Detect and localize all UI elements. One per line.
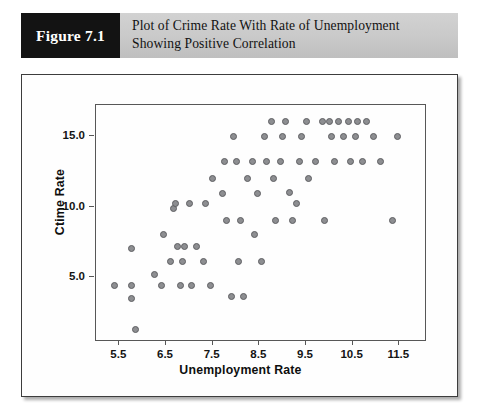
y-tick-label: 5.0 — [47, 270, 85, 282]
data-point — [200, 258, 207, 265]
data-point — [261, 133, 268, 140]
data-point — [340, 133, 347, 140]
data-point — [233, 158, 240, 165]
data-point — [293, 200, 300, 207]
data-point — [186, 200, 193, 207]
data-point — [151, 271, 158, 278]
data-point — [158, 282, 165, 289]
data-point — [177, 282, 184, 289]
data-point — [202, 200, 209, 207]
data-point — [359, 158, 366, 165]
data-point — [223, 217, 230, 224]
data-point — [347, 158, 354, 165]
data-point — [331, 158, 338, 165]
data-point — [111, 282, 118, 289]
data-point — [174, 243, 181, 250]
x-axis-tick — [398, 340, 399, 345]
data-point — [172, 200, 179, 207]
data-point — [128, 245, 135, 252]
x-axis-tick — [165, 340, 166, 345]
figure-number-badge: Figure 7.1 — [21, 13, 120, 58]
data-point — [181, 243, 188, 250]
data-point — [312, 158, 319, 165]
data-point — [128, 282, 135, 289]
data-point — [244, 175, 251, 182]
data-point — [345, 118, 352, 125]
data-point — [179, 258, 186, 265]
x-axis-tick — [212, 340, 213, 345]
x-axis-tick — [258, 340, 259, 345]
x-tick-label: 9.5 — [297, 348, 313, 360]
data-point — [160, 231, 167, 238]
x-tick-label: 6.5 — [157, 348, 173, 360]
data-point — [132, 326, 139, 333]
data-point — [370, 133, 377, 140]
data-point — [352, 133, 359, 140]
x-axis-tick — [352, 340, 353, 345]
x-axis-tick — [305, 340, 306, 345]
data-point — [305, 175, 312, 182]
data-point — [279, 133, 286, 140]
data-point — [268, 118, 275, 125]
data-point — [230, 133, 237, 140]
data-point — [296, 158, 303, 165]
data-point — [326, 118, 333, 125]
y-axis-tick — [89, 135, 94, 136]
x-tick-label: 5.5 — [110, 348, 126, 360]
data-point — [228, 293, 235, 300]
data-point — [363, 118, 370, 125]
data-point — [193, 243, 200, 250]
data-point — [251, 231, 258, 238]
data-point — [321, 217, 328, 224]
y-axis-tick — [89, 206, 94, 207]
y-axis-label: Ctime Rate — [53, 142, 67, 262]
data-point — [389, 217, 396, 224]
y-axis-tick — [89, 276, 94, 277]
data-point — [277, 158, 284, 165]
x-tick-label: 10.5 — [340, 348, 362, 360]
data-point — [237, 217, 244, 224]
data-point — [303, 118, 310, 125]
figure-caption-band: Figure 7.1 Plot of Crime Rate With Rate … — [21, 13, 458, 58]
data-point — [335, 118, 342, 125]
data-point — [221, 158, 228, 165]
data-point — [167, 258, 174, 265]
figure-caption-text: Plot of Crime Rate With Rate of Unemploy… — [132, 17, 452, 52]
data-point — [263, 158, 270, 165]
data-point — [254, 190, 261, 197]
data-point — [188, 282, 195, 289]
scatter-plot-area — [95, 104, 426, 341]
x-tick-label: 8.5 — [250, 348, 266, 360]
data-point — [354, 118, 361, 125]
data-point — [235, 258, 242, 265]
data-point — [240, 293, 247, 300]
x-axis-label: Unemployment Rate — [22, 363, 459, 377]
data-point — [207, 282, 214, 289]
data-point — [270, 175, 277, 182]
x-tick-label: 7.5 — [204, 348, 220, 360]
data-point — [286, 189, 293, 196]
data-point — [128, 295, 135, 302]
data-point — [209, 175, 216, 182]
data-point — [289, 217, 296, 224]
x-axis-tick — [118, 340, 119, 345]
data-point — [319, 118, 326, 125]
data-point — [219, 190, 226, 197]
data-point — [328, 133, 335, 140]
data-point — [258, 258, 265, 265]
y-tick-label: 15.0 — [47, 129, 85, 141]
data-point — [377, 158, 384, 165]
data-point — [249, 158, 256, 165]
data-point — [394, 133, 401, 140]
data-point — [272, 217, 279, 224]
data-point — [282, 118, 289, 125]
chart-panel: 5.56.57.58.59.510.511.5 5.010.015.0 Unem… — [21, 74, 458, 397]
data-point — [298, 133, 305, 140]
x-tick-label: 11.5 — [387, 348, 409, 360]
